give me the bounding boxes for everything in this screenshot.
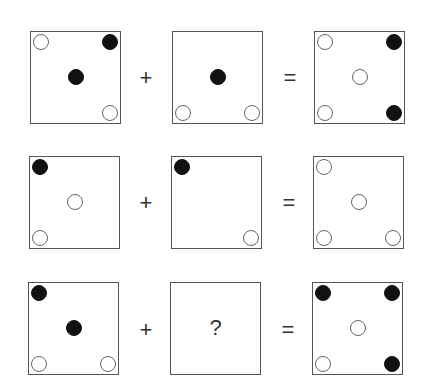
filled-circle-icon xyxy=(386,105,402,121)
row1-result-box xyxy=(314,31,405,124)
open-circle-icon xyxy=(33,34,49,50)
open-circle-icon xyxy=(244,105,260,121)
row1-operand1-box xyxy=(30,31,121,124)
open-circle-icon xyxy=(317,34,333,50)
open-circle-icon xyxy=(67,194,83,210)
row2-operand1-box xyxy=(29,156,120,249)
open-circle-icon xyxy=(316,230,332,246)
open-circle-icon xyxy=(100,356,116,372)
open-circle-icon xyxy=(350,320,366,336)
filled-circle-icon xyxy=(31,285,47,301)
filled-circle-icon xyxy=(384,285,400,301)
row2-result-box xyxy=(313,156,404,249)
equals-sign: = xyxy=(278,66,302,90)
filled-circle-icon xyxy=(315,285,331,301)
open-circle-icon xyxy=(351,194,367,210)
plus-sign: + xyxy=(134,191,158,215)
filled-circle-icon xyxy=(32,159,48,175)
filled-circle-icon xyxy=(66,320,82,336)
open-circle-icon xyxy=(102,105,118,121)
filled-circle-icon xyxy=(68,69,84,85)
open-circle-icon xyxy=(315,356,331,372)
row1-operand2-box xyxy=(172,31,263,124)
row3-operand1-box xyxy=(28,282,119,375)
plus-sign: + xyxy=(134,66,158,90)
filled-circle-icon xyxy=(386,34,402,50)
question-mark: ? xyxy=(171,315,260,341)
open-circle-icon xyxy=(243,230,259,246)
row3-operand2-unknown-box: ? xyxy=(170,282,261,375)
filled-circle-icon xyxy=(210,69,226,85)
filled-circle-icon xyxy=(174,159,190,175)
filled-circle-icon xyxy=(384,356,400,372)
row2-operand2-box xyxy=(171,156,262,249)
open-circle-icon xyxy=(32,230,48,246)
open-circle-icon xyxy=(316,159,332,175)
filled-circle-icon xyxy=(102,34,118,50)
open-circle-icon xyxy=(385,230,401,246)
row3-result-box xyxy=(312,282,403,375)
equals-sign: = xyxy=(277,191,301,215)
open-circle-icon xyxy=(352,69,368,85)
equals-sign: = xyxy=(276,318,300,342)
open-circle-icon xyxy=(317,105,333,121)
open-circle-icon xyxy=(31,356,47,372)
open-circle-icon xyxy=(175,105,191,121)
plus-sign: + xyxy=(134,318,158,342)
